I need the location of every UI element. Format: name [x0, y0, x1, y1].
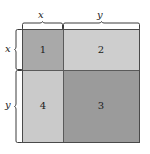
region-4: 4	[23, 70, 63, 142]
vertical-divider	[63, 30, 64, 142]
dimension-label-left-x: x	[5, 44, 11, 54]
brace-top-y	[63, 21, 140, 29]
region-1: 1	[23, 30, 63, 70]
dimension-label-left-y: y	[5, 100, 11, 110]
region-1-label: 1	[23, 45, 63, 55]
region-4-label: 4	[23, 101, 63, 111]
dimension-label-top-y: y	[97, 10, 103, 20]
region-2: 2	[63, 30, 139, 70]
dimension-label-top-x: x	[38, 10, 44, 20]
region-2-label: 2	[63, 45, 139, 55]
brace-left-y	[14, 70, 22, 143]
brace-left-x	[14, 29, 22, 70]
horizontal-divider	[23, 70, 139, 71]
region-3-label: 3	[63, 101, 139, 111]
subdivided-square: 1 2 4 3	[22, 29, 140, 143]
region-3: 3	[63, 70, 139, 142]
brace-top-x	[22, 21, 63, 29]
area-model-figure: x y x y 1 2 4 3	[0, 0, 150, 154]
